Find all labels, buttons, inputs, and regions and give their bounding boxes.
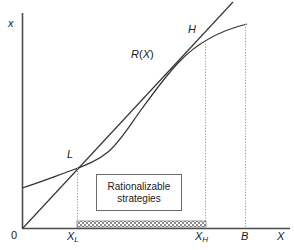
- rationalizable-box-line1: Rationalizable: [108, 181, 171, 193]
- tick-label-xh: XH: [195, 231, 208, 244]
- figure-canvas: x X 0 R(X) L H XL XH B Rationalizable st…: [0, 0, 294, 250]
- tick-label-b: B: [241, 231, 248, 242]
- curve-label-close-paren: ): [150, 48, 154, 60]
- fixed-point-low-label: L: [67, 149, 73, 160]
- fixed-point-high-label: H: [188, 24, 196, 35]
- tick-label-xl: XL: [67, 231, 79, 244]
- rationalizable-interval-bar: [77, 221, 206, 227]
- tick-xl-subscript: L: [74, 235, 78, 244]
- tick-xh-subscript: H: [202, 235, 208, 244]
- reaction-curve-label: R(X): [131, 49, 154, 60]
- figure-svg: [0, 0, 294, 250]
- rationalizable-strategies-box: Rationalizable strategies: [96, 174, 182, 211]
- origin-label: 0: [11, 230, 17, 241]
- y-axis-label: x: [8, 18, 14, 29]
- curve-label-main: R: [131, 48, 139, 60]
- rationalizable-box-line2: strategies: [117, 193, 160, 205]
- curve-label-arg: X: [143, 48, 150, 60]
- x-axis-label: X: [277, 231, 284, 242]
